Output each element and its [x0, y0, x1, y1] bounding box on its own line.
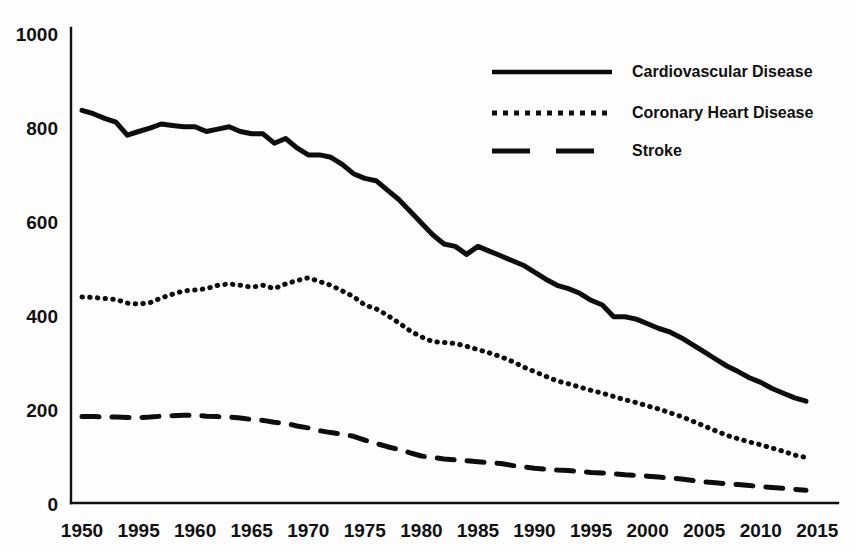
- chart-page: 1000 800 600 400 200 0 19501995196019651…: [0, 0, 855, 553]
- x-tick-label: 1980: [400, 520, 442, 541]
- x-tick-label: 1970: [287, 520, 329, 541]
- x-tick-label: 1950: [61, 520, 103, 541]
- y-tick-label: 0: [47, 494, 58, 515]
- legend-label-cardiovascular-disease: Cardiovascular Disease: [632, 63, 813, 80]
- y-tick-label: 800: [26, 118, 58, 139]
- y-tick-label: 400: [26, 306, 58, 327]
- y-axis-tick-labels: 1000 800 600 400 200 0: [16, 24, 58, 515]
- x-tick-label: 1995: [117, 520, 160, 541]
- x-tick-label: 1975: [344, 520, 387, 541]
- y-tick-label: 600: [26, 212, 58, 233]
- x-tick-label: 1990: [513, 520, 555, 541]
- x-tick-label: 2010: [740, 520, 782, 541]
- x-tick-label: 1960: [174, 520, 216, 541]
- x-tick-label: 2000: [626, 520, 668, 541]
- legend-label-stroke: Stroke: [632, 142, 682, 159]
- series-line-stroke: [82, 415, 806, 490]
- series-line-cardiovascular-disease: [82, 110, 806, 401]
- legend-label-coronary-heart-disease: Coronary Heart Disease: [632, 104, 814, 121]
- series-group: [82, 110, 806, 490]
- x-tick-label: 1985: [457, 520, 500, 541]
- x-axis-tick-labels: 1950199519601965197019751980198519901995…: [61, 520, 839, 541]
- x-tick-label: 2015: [796, 520, 839, 541]
- x-tick-label: 1995: [570, 520, 613, 541]
- line-chart: 1000 800 600 400 200 0 19501995196019651…: [0, 0, 855, 553]
- x-tick-label: 1965: [231, 520, 274, 541]
- legend: Cardiovascular Disease Coronary Heart Di…: [492, 63, 814, 159]
- y-tick-label: 200: [26, 400, 58, 421]
- x-tick-label: 2005: [683, 520, 726, 541]
- y-tick-label: 1000: [16, 24, 58, 45]
- series-line-coronary-heart-disease: [82, 278, 806, 458]
